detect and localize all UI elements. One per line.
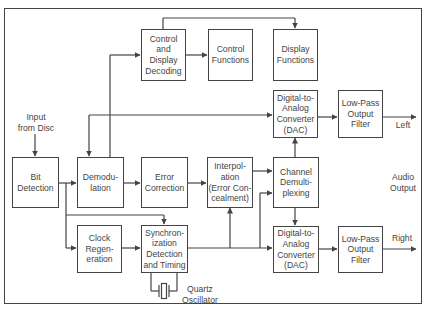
- block-dac-right: Digital-to- Analog Converter (DAC): [273, 226, 319, 273]
- block-channel-demux: Channel Demulti- plexing: [273, 157, 319, 208]
- label-quartz-oscillator: Quartz Oscillator: [178, 284, 222, 305]
- block-error-correction: Error Correction: [141, 157, 188, 208]
- block-lpf-left: Low-Pass Output Filter: [338, 90, 383, 138]
- label-right: Right: [388, 233, 416, 244]
- block-dac-left: Digital-to- Analog Converter (DAC): [273, 90, 318, 138]
- block-demodulation: Demodu- lation: [77, 157, 124, 208]
- block-display-functions: Display Functions: [273, 29, 318, 81]
- block-sync-detection: Synchron- ization Detection and Timing: [141, 225, 188, 273]
- block-bit-detection: Bit Detection: [12, 157, 59, 208]
- quartz-crystal-icon: [162, 284, 167, 299]
- block-control-functions: Control Functions: [208, 29, 253, 81]
- label-left: Left: [390, 120, 416, 131]
- block-lpf-right: Low-Pass Output Filter: [338, 226, 383, 273]
- block-interpolation: Interpol- ation (Error Con- cealment): [207, 157, 253, 208]
- block-clock-regeneration: Clock Regen- eration: [77, 225, 122, 273]
- block-control-display-decoding: Control and Display Decoding: [141, 29, 186, 81]
- label-input-from-disc: Input from Disc: [13, 112, 59, 133]
- label-audio-output: Audio Output: [386, 172, 420, 193]
